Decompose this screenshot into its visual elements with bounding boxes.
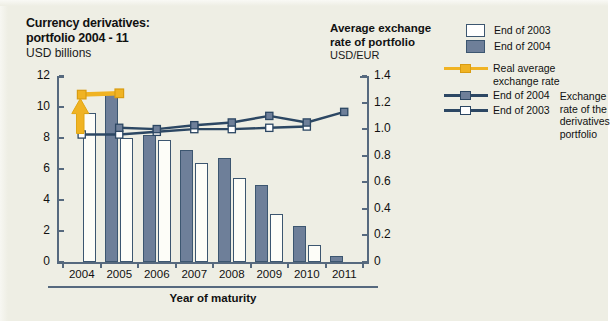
- right-axis-units: USD/EUR: [330, 49, 380, 61]
- left-axis-tick-label: 10: [10, 100, 50, 112]
- right-axis-tick-labels: 1.41.21.00.80.60.40.20: [374, 76, 418, 264]
- exchange-rate-end-of-2004-marker: [303, 119, 310, 126]
- real-average-exchange-rate-arrow-icon: [72, 99, 89, 134]
- legend-label-line2: exchange rate: [493, 75, 560, 87]
- exchange-rate-end-of-2004-marker: [116, 124, 123, 131]
- swatch-dark-icon: [466, 40, 485, 53]
- legend-line-entries: Real average exchange rate End of 2004 E…: [444, 62, 600, 140]
- legend-item-end-of-2004[interactable]: End of 2004: [466, 40, 600, 53]
- left-axis-tick-label: 8: [10, 131, 50, 143]
- legend-note-line3: derivatives: [560, 115, 610, 127]
- left-axis-tick-label: 0: [10, 255, 50, 267]
- left-axis-tick-label: 6: [10, 162, 50, 174]
- line-swatch-light-icon: [444, 104, 488, 117]
- x-axis-rule: [48, 286, 378, 288]
- real-average-exchange-rate-marker: [115, 89, 124, 98]
- swatch-light-icon: [466, 24, 485, 37]
- title-left-line2: portfolio 2004 - 11: [26, 31, 128, 45]
- legend-note-line2: rate of the: [560, 103, 607, 115]
- right-axis-tick-label: 0.6: [374, 175, 414, 187]
- right-axis-tick-label: 0.8: [374, 149, 414, 161]
- legend-note-line4: portfolio: [560, 128, 597, 140]
- title-left-line1: Currency derivatives:: [26, 16, 150, 30]
- legend-label: End of 2004: [493, 89, 550, 102]
- right-axis-tick-label: 1.4: [374, 69, 414, 81]
- legend-item-real-average-exchange-rate[interactable]: Real average exchange rate: [444, 62, 600, 87]
- exchange-rate-end-of-2004-marker: [228, 119, 235, 126]
- exchange-rate-end-of-2004-marker: [191, 122, 198, 129]
- legend-group-exchange-rate: End of 2004 End of 2003 Exchange rate of…: [444, 89, 600, 140]
- real-average-exchange-rate-line: [82, 93, 120, 94]
- x-axis-title: Year of maturity: [48, 292, 378, 304]
- x-axis-tick-label: 2011: [321, 268, 367, 280]
- legend-bar-entries: End of 2003 End of 2004: [466, 24, 600, 53]
- line-swatch-dark-icon: [444, 89, 488, 102]
- legend-group-lines: End of 2004 End of 2003: [444, 89, 550, 119]
- real-average-exchange-rate-marker: [77, 90, 86, 99]
- left-axis-units: USD billions: [26, 46, 91, 60]
- title-right-line1: Average exchange: [330, 22, 431, 34]
- right-axis-tick-label: 0: [374, 255, 414, 267]
- left-axis-tick-label: 12: [10, 69, 50, 81]
- legend-label: End of 2003: [494, 24, 551, 37]
- legend-item-line-end-of-2003[interactable]: End of 2003: [444, 104, 550, 117]
- legend-label: End of 2003: [493, 104, 550, 117]
- page-title: Currency derivatives: portfolio 2004 - 1…: [26, 16, 236, 45]
- legend: End of 2003 End of 2004 Real average exc…: [445, 24, 600, 140]
- right-axis-tick-label: 1.2: [374, 96, 414, 108]
- exchange-rate-end-of-2003-marker: [266, 124, 273, 131]
- line-swatch-yellow-icon: [444, 62, 488, 75]
- exchange-rate-end-of-2004-marker: [266, 112, 273, 119]
- plot-area: [57, 76, 369, 264]
- legend-label: End of 2004: [494, 40, 551, 53]
- left-axis-tick-label: 2: [10, 224, 50, 236]
- left-axis-tick-label: 4: [10, 193, 50, 205]
- legend-label-line1: Real average: [493, 62, 555, 74]
- right-axis-tick-label: 0.4: [374, 202, 414, 214]
- legend-note-line1: Exchange: [560, 90, 607, 102]
- legend-item-end-of-2003[interactable]: End of 2003: [466, 24, 600, 37]
- left-axis-tick-labels: 121086420: [6, 76, 50, 264]
- line-series-group: [57, 76, 369, 264]
- exchange-rate-end-of-2004-marker: [153, 126, 160, 133]
- legend-item-line-end-of-2004[interactable]: End of 2004: [444, 89, 550, 102]
- right-axis-tick-label: 1.0: [374, 122, 414, 134]
- title-right-line2: rate of portfolio: [330, 36, 415, 48]
- legend-group-note: Exchange rate of the derivatives portfol…: [560, 89, 610, 140]
- exchange-rate-end-of-2004-marker: [341, 108, 348, 115]
- legend-label: Real average exchange rate: [493, 62, 560, 87]
- right-axis-tick-label: 0.2: [374, 228, 414, 240]
